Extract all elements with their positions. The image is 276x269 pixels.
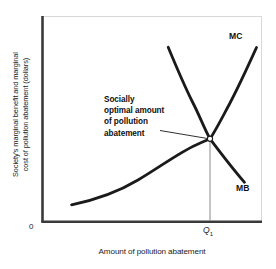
y-axis-label-line2: cost of pollution abatement (dollars): [20, 53, 30, 178]
intersection-marker: [207, 136, 212, 141]
annotation-line-3: of pollution: [104, 116, 182, 127]
q1-base: Q: [203, 225, 210, 235]
mb-curve-falling: [210, 139, 245, 183]
origin-label: 0: [29, 222, 33, 231]
x-axis-label: Amount of pollution abatement: [42, 247, 262, 256]
y-axis-label: Society's marginal benefit and marginal …: [0, 0, 40, 230]
annotation-line-1: Socially: [104, 94, 182, 105]
mc-curve-label: MC: [229, 31, 243, 41]
annotation-line-2: optimal amount: [104, 105, 182, 116]
q1-subscript: 1: [210, 231, 213, 237]
mb-curve-rising: [72, 139, 210, 205]
y-axis-label-line1: Society's marginal benefit and marginal: [10, 53, 20, 178]
annotation-line-4: abatement: [104, 128, 182, 139]
economics-chart-figure: Society's marginal benefit and marginal …: [0, 0, 276, 269]
x-tick-q1: Q1: [203, 225, 213, 237]
socially-optimal-annotation: Socially optimal amount of pollution aba…: [104, 94, 182, 139]
mb-curve-label: MB: [236, 183, 250, 193]
